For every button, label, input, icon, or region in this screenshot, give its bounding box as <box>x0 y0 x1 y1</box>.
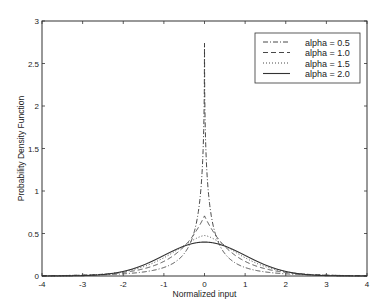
y-tick-label: 2.5 <box>28 60 40 69</box>
y-tick-label: 0.5 <box>28 230 40 239</box>
x-tick-label: 1 <box>243 280 248 289</box>
legend-label: alpha = 1.5 <box>305 59 350 69</box>
x-tick-label: 3 <box>324 280 329 289</box>
y-tick-label: 2 <box>35 102 40 111</box>
legend-label: alpha = 2.0 <box>305 69 350 79</box>
curve-alpha-1 <box>42 216 367 276</box>
y-tick-label: 0 <box>35 272 40 281</box>
x-tick-label: -2 <box>120 280 128 289</box>
y-axis-label: Probability Density Function <box>16 96 26 202</box>
x-tick-label: 0 <box>202 280 207 289</box>
legend: alpha = 0.5alpha = 1.0alpha = 1.5alpha =… <box>255 33 360 83</box>
x-tick-label: 2 <box>284 280 289 289</box>
x-tick-label: -4 <box>38 280 46 289</box>
x-tick-label: 4 <box>365 280 370 289</box>
x-tick-label: -3 <box>79 280 87 289</box>
x-tick-label: -1 <box>160 280 168 289</box>
y-tick-label: 1 <box>35 187 40 196</box>
legend-label: alpha = 1.0 <box>305 48 350 58</box>
pdf-chart: -4-3-2-101234 00.511.522.53 Normalized i… <box>0 0 385 308</box>
y-tick-label: 3 <box>35 17 40 26</box>
x-axis-label: Normalized input <box>173 289 237 299</box>
y-tick-label: 1.5 <box>28 145 40 154</box>
legend-label: alpha = 0.5 <box>305 38 350 48</box>
curve-alpha-2 <box>42 242 367 276</box>
